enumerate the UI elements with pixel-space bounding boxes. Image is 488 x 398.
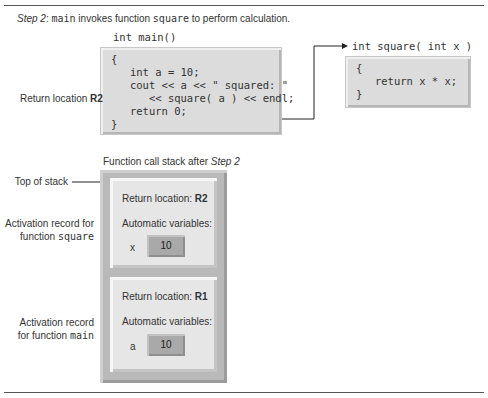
main-code-line: << square( a ) << endl; — [111, 92, 294, 104]
return-location-value: R2 — [90, 93, 103, 104]
square-code-box: { return x * x; } — [345, 56, 471, 108]
top-of-stack-label: Top of stack — [15, 175, 68, 188]
stack-caption: Function call stack after Step 2 — [103, 156, 240, 167]
main-code-line: cout << a << " squared: " — [111, 79, 288, 91]
record-auto-vars-label: Automatic variables: — [122, 316, 212, 327]
main-code-line: int a = 10; — [111, 66, 200, 78]
record-return-location: Return location: R1 — [122, 291, 208, 302]
activation-record-main-label: Activation record for function main — [18, 316, 94, 342]
square-code-line: return x * x; — [356, 75, 457, 87]
main-code-line: } — [111, 118, 117, 130]
activation-record-square: Return location: R2 Automatic variables:… — [110, 178, 217, 268]
square-code-line: } — [356, 88, 362, 100]
record-var-value: 10 — [147, 235, 185, 257]
record-var-name: a — [130, 341, 136, 352]
record-var-name: x — [130, 242, 135, 253]
activation-record-square-label: Activation record for function square — [5, 217, 94, 243]
activation-record-main: Return location: R1 Automatic variables:… — [110, 277, 217, 372]
return-location-label: Return location R2 — [20, 92, 103, 105]
record-return-location: Return location: R2 — [122, 193, 208, 204]
main-signature: int main() — [113, 31, 176, 43]
main-code-box: { int a = 10; cout << a << " squared: " … — [100, 47, 282, 135]
record-auto-vars-label: Automatic variables: — [122, 218, 212, 229]
square-code-line: { — [356, 62, 362, 74]
main-code-line: { — [111, 53, 117, 65]
square-signature: int square( int x ) — [352, 40, 472, 52]
call-stack: Return location: R2 Automatic variables:… — [100, 170, 227, 383]
main-code-line: return 0; — [111, 105, 187, 117]
record-var-value: 10 — [147, 334, 185, 356]
